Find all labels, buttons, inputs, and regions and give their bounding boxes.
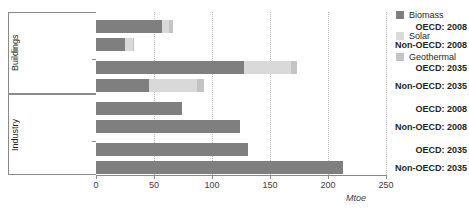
bar-industry-oecd-2008-biomass	[96, 102, 182, 115]
legend-item-geothermal: Geothermal	[396, 52, 469, 62]
x-tick-250	[386, 175, 387, 179]
x-tick-label-0: 0	[76, 180, 116, 190]
bar-industry-nonoecd-2035-biomass	[96, 161, 343, 174]
x-tick-label-50: 50	[134, 180, 174, 190]
x-tick-50	[154, 175, 155, 179]
legend: Biomass Solar Geothermal	[396, 10, 469, 73]
bar-buildings-nonoecd-2008-geothermal	[133, 38, 134, 51]
x-tick-200	[328, 175, 329, 179]
bar-buildings-oecd-2008-geothermal	[169, 20, 172, 33]
bar-buildings-oecd-2035-biomass	[96, 61, 244, 74]
legend-label-biomass: Biomass	[409, 10, 444, 20]
bar-buildings-nonoecd-2035-geothermal	[197, 79, 204, 92]
x-tick-label-100: 100	[192, 180, 232, 190]
bar-buildings-nonoecd-2035-biomass	[96, 79, 149, 92]
bar-buildings-nonoecd-2035-solar	[149, 79, 197, 92]
bar-buildings-oecd-2008-biomass	[96, 20, 162, 33]
bar-buildings-nonoecd-2008-biomass	[96, 38, 125, 51]
x-tick-150	[270, 175, 271, 179]
x-tick-label-200: 200	[308, 180, 348, 190]
x-axis-line	[96, 175, 387, 176]
legend-swatch-solar	[396, 32, 404, 40]
x-axis-title: Mtoe	[346, 193, 366, 203]
legend-label-geothermal: Geothermal	[409, 52, 456, 62]
legend-label-solar: Solar	[409, 31, 430, 41]
x-tick-0	[96, 175, 97, 179]
legend-swatch-geothermal	[396, 53, 404, 61]
x-tick-100	[212, 175, 213, 179]
x-tick-label-150: 150	[250, 180, 290, 190]
x-tick-label-250: 250	[366, 180, 406, 190]
bar-buildings-oecd-2008-solar	[162, 20, 169, 33]
legend-swatch-biomass	[396, 11, 404, 19]
bar-buildings-oecd-2035-geothermal	[291, 61, 297, 74]
legend-item-biomass: Biomass	[396, 10, 469, 20]
bar-industry-nonoecd-2008-biomass	[96, 120, 240, 133]
bar-chart: Buildings Industry OECD: 2008 Non-OECD: …	[0, 0, 469, 213]
legend-item-solar: Solar	[396, 31, 469, 41]
bar-buildings-nonoecd-2008-solar	[125, 38, 133, 51]
bar-buildings-oecd-2035-solar	[244, 61, 290, 74]
bar-industry-oecd-2035-biomass	[96, 143, 248, 156]
